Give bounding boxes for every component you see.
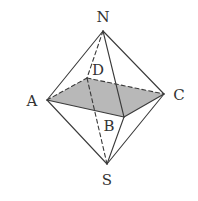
vertex-label-n: N — [96, 8, 109, 26]
vertex-label-b: B — [103, 117, 114, 135]
vertex-label-c: C — [173, 86, 184, 104]
octahedron-diagram: N A B C D S — [0, 0, 198, 201]
octahedron-figure: N A B C D S — [0, 0, 198, 201]
vertex-label-d: D — [92, 61, 104, 79]
shaded-square-abcd — [47, 78, 164, 117]
vertex-label-a: A — [26, 92, 38, 110]
vertex-label-s: S — [102, 171, 112, 189]
